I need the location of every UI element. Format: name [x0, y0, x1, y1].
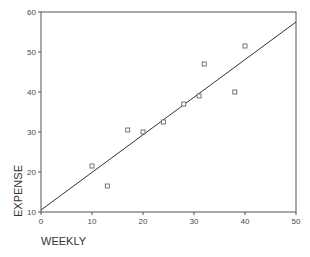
regression-line [41, 22, 296, 210]
y-tick-label: 30 [27, 128, 36, 137]
scatter-chart: 102030405060 01020304050 EXPENSE WEEKLY [0, 0, 310, 257]
data-point-marker [90, 164, 94, 168]
data-point-marker [197, 94, 201, 98]
x-tick-label: 40 [241, 217, 250, 226]
data-point-marker [233, 90, 237, 94]
x-tick-label: 30 [190, 217, 199, 226]
data-point-marker [126, 128, 130, 132]
x-tick-label: 0 [39, 217, 44, 226]
data-point-marker [141, 130, 145, 134]
data-point-marker [182, 102, 186, 106]
y-tick-label: 40 [27, 88, 36, 97]
y-tick-label: 10 [27, 208, 36, 217]
y-tick-label: 50 [27, 48, 36, 57]
data-point-marker [161, 120, 165, 124]
data-point-marker [243, 44, 247, 48]
x-tick-label: 50 [292, 217, 301, 226]
x-axis-ticks: 01020304050 [39, 212, 301, 226]
y-axis-ticks: 102030405060 [27, 8, 41, 217]
x-tick-label: 20 [139, 217, 148, 226]
x-axis-label: WEEKLY [41, 235, 87, 247]
x-tick-label: 10 [88, 217, 97, 226]
y-axis-label: EXPENSE [12, 165, 24, 217]
data-point-marker [202, 62, 206, 66]
y-tick-label: 60 [27, 8, 36, 17]
data-point-marker [105, 184, 109, 188]
y-tick-label: 20 [27, 168, 36, 177]
